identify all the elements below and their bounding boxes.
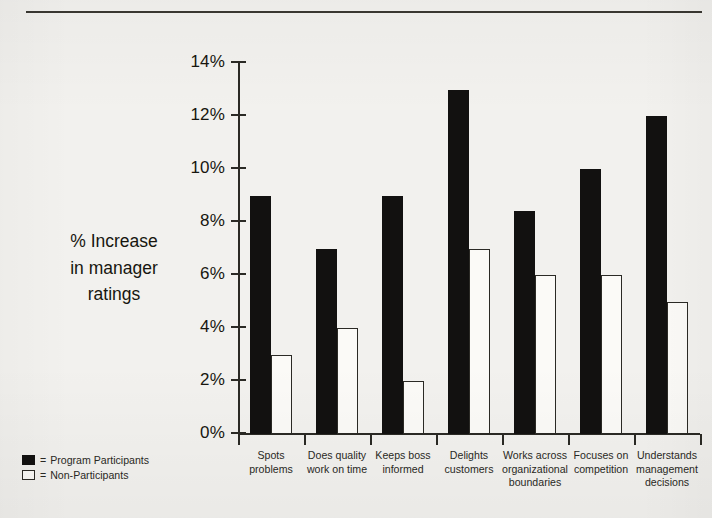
category-label-line: competition [564,463,638,477]
y-axis-tick-label: 14% [165,53,225,70]
bar [601,275,622,434]
bar [646,116,667,434]
category-label: Spotsproblems [234,449,308,476]
category-label-line: Works across [498,449,572,463]
y-axis-tick-label: 12% [165,106,225,123]
chart-figure: % Increase in manager ratings 0%2%4%6%8%… [0,0,712,518]
x-axis-tick [634,434,636,445]
x-axis-tick [238,434,240,445]
y-axis-tick-label: 8% [165,212,225,229]
bar [337,328,358,434]
legend-separator-1: = [40,454,46,466]
bar [514,211,535,434]
bar [580,169,601,434]
category-label-line: customers [432,463,506,477]
legend-label-1: Program Participants [50,454,149,466]
category-label-line: Focuses on [564,449,638,463]
bar [271,355,292,435]
x-axis-tick [568,434,570,445]
filled-square-icon [22,455,35,465]
y-axis-tick [231,379,246,381]
y-axis-tick-label: 0% [165,424,225,441]
y-axis-tick [231,61,246,63]
x-axis-tick [436,434,438,445]
y-axis-tick [231,326,246,328]
category-label: Does qualitywork on time [300,449,374,476]
legend-separator-2: = [40,469,46,481]
bar [469,249,490,435]
x-axis-tick [502,434,504,445]
category-label-line: problems [234,463,308,477]
category-label-line: organizational [498,463,572,477]
x-axis-tick [304,434,306,445]
bar [403,381,424,434]
category-label: Keeps bossinformed [366,449,440,476]
category-label-line: work on time [300,463,374,477]
category-label: Delightscustomers [432,449,506,476]
y-axis-tick [231,167,246,169]
legend-label-2: Non-Participants [50,469,128,481]
legend-item-program-participants: = Program Participants [22,452,149,467]
category-label: Focuses oncompetition [564,449,638,476]
y-axis-tick-label: 2% [165,371,225,388]
category-label-line: boundaries [498,476,572,490]
bar [535,275,556,434]
y-axis-tick-label: 10% [165,159,225,176]
bar [448,90,469,435]
category-label-line: decisions [630,476,704,490]
category-label-line: Spots [234,449,308,463]
category-label-line: Does quality [300,449,374,463]
category-label-line: informed [366,463,440,477]
x-axis-tick [370,434,372,445]
bar [382,196,403,435]
chart-legend: = Program Participants = Non-Participant… [22,452,149,482]
category-label-line: Understands [630,449,704,463]
category-label-line: management [630,463,704,477]
x-axis-tick [700,434,702,445]
bar [316,249,337,435]
category-label: Understandsmanagementdecisions [630,449,704,490]
category-label-line: Keeps boss [366,449,440,463]
category-label-line: Delights [432,449,506,463]
y-axis-tick [231,114,246,116]
y-axis-tick-label: 4% [165,318,225,335]
y-axis-tick [231,220,246,222]
category-label: Works acrossorganizationalboundaries [498,449,572,490]
bar [667,302,688,435]
legend-item-non-participants: = Non-Participants [22,467,149,482]
plot-area: 0%2%4%6%8%10%12%14% SpotsproblemsDoes qu… [0,0,712,518]
bar [250,196,271,435]
y-axis-tick [231,273,246,275]
hollow-square-icon [22,470,35,480]
y-axis-tick-label: 6% [165,265,225,282]
